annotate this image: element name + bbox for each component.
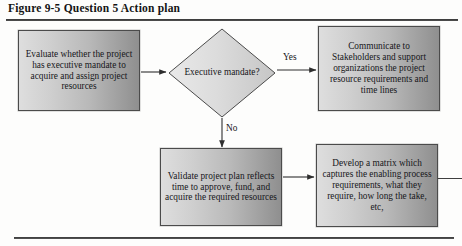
edge-label-yes: Yes: [283, 52, 297, 62]
gutter-rule-right: [438, 178, 462, 179]
edge-label-no: No: [226, 123, 237, 133]
flow-node-communicate-label: Communicate to Stakeholders and support …: [323, 41, 435, 96]
flow-node-matrix-label: Develop a matrix which captures the enab…: [321, 158, 433, 213]
figure-page: Figure 9-5 Question 5 Action plan Evalua…: [0, 0, 462, 246]
flow-node-decision: Executive mandate?: [168, 28, 276, 118]
flow-node-communicate: Communicate to Stakeholders and support …: [318, 26, 440, 111]
diamond-shape-icon: [168, 28, 276, 118]
flow-node-evaluate-label: Evaluate whether the project has executi…: [23, 49, 135, 93]
flow-node-evaluate: Evaluate whether the project has executi…: [18, 30, 140, 111]
flow-node-matrix: Develop a matrix which captures the enab…: [316, 144, 438, 227]
flow-node-validate: Validate project plan reflects time to a…: [160, 148, 282, 226]
flow-node-validate-label: Validate project plan reflects time to a…: [165, 171, 277, 204]
